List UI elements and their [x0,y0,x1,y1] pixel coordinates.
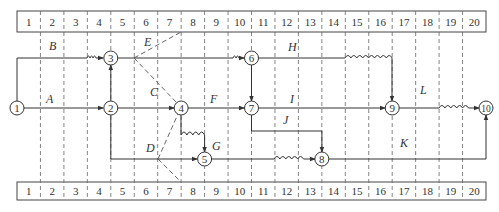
node-label: 4 [178,102,184,114]
bottom-scale-label: 10 [234,185,246,197]
activity-label-I: I [289,92,295,106]
top-scale-label: 10 [234,16,246,28]
node-1: 1 [10,101,24,115]
bottom-scale-label: 3 [73,185,79,197]
bottom-scale-label: 13 [305,185,317,197]
activity-G-float-wave [181,132,205,135]
bottom-scale-label: 12 [281,185,292,197]
top-scale-label: 12 [281,16,292,28]
node-9: 9 [385,101,399,115]
node-label: 5 [202,153,208,165]
node-8: 8 [315,152,329,166]
bottom-scale-label: 8 [190,185,196,197]
node-7: 7 [245,101,259,115]
node-2: 2 [104,101,118,115]
top-scale-label: 5 [120,16,126,28]
activity-label-C: C [150,85,159,99]
node-label: 2 [108,102,114,114]
bottom-scale-label: 6 [143,185,149,197]
top-scale-label: 6 [143,16,149,28]
node-label: 6 [249,52,255,64]
top-scale-label: 9 [214,16,220,28]
bottom-scale-label: 2 [49,185,55,197]
activity-label-A: A [45,92,54,106]
top-scale-label: 18 [422,16,434,28]
node-label: 8 [319,153,325,165]
bottom-scale-label: 19 [445,185,457,197]
bottom-scale-label: 9 [214,185,220,197]
top-scale-label: 16 [375,16,387,28]
top-scale-label: 11 [258,16,269,28]
activity-L-float-wave [439,106,468,109]
top-scale-label: 15 [352,16,364,28]
bottom-scale-label: 7 [167,185,173,197]
bottom-scale-label: 15 [352,185,364,197]
bottom-scale-label: 5 [120,185,126,197]
bottom-scale-label: 17 [398,185,410,197]
top-scale-label: 7 [167,16,173,28]
bottom-scale-label: 14 [328,185,340,197]
node-5: 5 [198,152,212,166]
top-scale-label: 14 [328,16,340,28]
top-scale-label: 2 [49,16,55,28]
node-label: 9 [389,102,395,114]
top-scale-label: 20 [469,16,481,28]
node-6: 6 [245,51,259,65]
node-4: 4 [174,101,188,115]
top-scale-label: 8 [190,16,196,28]
activity-label-K: K [399,136,409,150]
top-scale-label: 4 [96,16,102,28]
activity-label-D: D [145,141,155,155]
top-scale-label: 19 [445,16,457,28]
bottom-scale-label: 4 [96,185,102,197]
top-scale-label: 13 [305,16,317,28]
node-label: 3 [108,52,114,64]
bottom-scale-label: 16 [375,185,387,197]
top-scale-label: 1 [26,16,32,28]
node-3: 3 [104,51,118,65]
activity-label-F: F [209,92,218,106]
activity-label-L: L [419,83,427,97]
bottom-scale-label: 20 [469,185,481,197]
network-diagram: 1234567891011121314151617181920 12345678… [0,0,499,212]
node-label: 10 [481,104,491,114]
node-label: 1 [14,102,20,114]
activity-label-B: B [49,39,57,53]
bottom-time-scale: 1234567891011121314151617181920 [17,182,486,200]
activity-label-H: H [287,40,298,54]
activity-label-E: E [143,35,152,49]
top-scale-label: 17 [398,16,410,28]
bottom-scale-label: 11 [258,185,269,197]
top-scale-label: 3 [73,16,79,28]
activity-labels: ABCDEFGHIJKL [45,35,427,155]
activity-label-J: J [283,113,289,127]
bottom-scale-label: 18 [422,185,434,197]
node-label: 7 [249,102,255,114]
activity-label-G: G [212,139,221,153]
activity-B-float-wave [87,56,96,58]
bottom-scale-label: 1 [26,185,32,197]
node-10: 10 [479,101,493,115]
